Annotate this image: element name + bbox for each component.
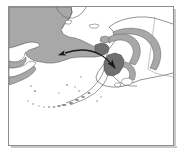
- st-lawrence-island: [89, 24, 99, 28]
- frame-shadow-right: [174, 9, 176, 148]
- frame-shadow-bottom: [11, 146, 177, 148]
- map-canvas: [9, 7, 173, 145]
- map-frame: [8, 6, 174, 146]
- map-figure-root: [0, 0, 184, 158]
